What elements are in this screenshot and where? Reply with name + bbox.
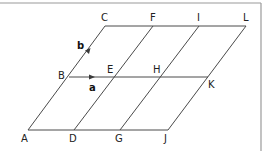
point-label-K: K [208,79,215,90]
point-label-G: G [115,133,123,144]
edge-JL [168,26,246,130]
point-label-D: D [69,133,77,144]
edge-AC [28,26,105,130]
edge-DF [74,26,153,130]
vector-a-arrowhead [89,75,95,80]
point-label-E: E [107,64,113,75]
point-label-J: J [163,133,167,144]
point-label-C: C [101,12,108,23]
edge-GI [120,26,199,130]
point-label-H: H [153,64,161,75]
point-label-A: A [21,133,28,144]
point-label-B: B [58,70,65,81]
point-label-L: L [243,12,249,23]
vector-b-label: b [77,40,84,51]
point-label-F: F [150,12,156,23]
parallelogram-diagram: b a C F I L B E H K A D G J [0,0,266,151]
vector-a-label: a [89,82,96,93]
point-label-I: I [197,12,200,23]
